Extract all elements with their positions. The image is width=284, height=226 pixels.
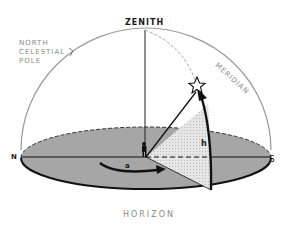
- zenith-star-dashed-arc: [145, 30, 197, 86]
- label-altitude: h: [201, 140, 208, 148]
- star-icon: [189, 77, 205, 93]
- label-azimuth: a: [125, 163, 131, 170]
- diagram-graphic: [0, 0, 284, 226]
- celestial-sphere-diagram: ZENITH NORTH CELESTIAL POLE MERIDIAN N S…: [0, 0, 284, 226]
- label-ncp-1: NORTH: [19, 40, 49, 47]
- label-north: N: [11, 154, 18, 161]
- label-ncp-2: CELESTIAL: [19, 49, 65, 56]
- label-ncp-3: POLE: [19, 58, 41, 65]
- label-zenith: ZENITH: [125, 19, 164, 27]
- label-horizon: HORIZON: [123, 211, 175, 219]
- label-south: S: [269, 155, 276, 164]
